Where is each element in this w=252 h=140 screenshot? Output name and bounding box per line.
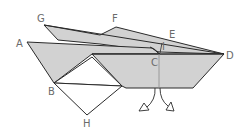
triangle-bh xyxy=(54,83,122,115)
label-d: D xyxy=(226,50,234,61)
label-g: G xyxy=(37,13,45,24)
label-h: H xyxy=(83,118,91,129)
label-c: C xyxy=(151,57,158,68)
label-e: E xyxy=(169,29,175,40)
label-i: I xyxy=(162,41,165,52)
label-a: A xyxy=(16,38,23,49)
label-b: B xyxy=(48,86,55,97)
curved-arrows-icon xyxy=(139,88,174,111)
label-f: F xyxy=(112,13,118,24)
folding-diagram: G F E A I D C B H xyxy=(0,0,252,140)
